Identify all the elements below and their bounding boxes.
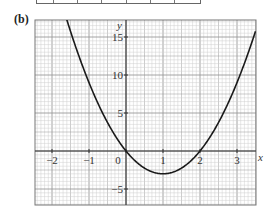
x-tick-label: 1 bbox=[160, 154, 166, 166]
x-axis-label: x bbox=[257, 151, 263, 163]
x-tick-label: −1 bbox=[83, 154, 95, 166]
x-tick-label: 2 bbox=[197, 154, 203, 166]
parabola-curve bbox=[35, 0, 255, 174]
x-tick-label: −2 bbox=[46, 154, 58, 166]
y-tick-label: −5 bbox=[111, 183, 123, 195]
x-tick-label: 0 bbox=[115, 154, 121, 166]
y-tick-label: 5 bbox=[118, 107, 124, 119]
y-tick-label: 10 bbox=[112, 69, 124, 81]
graph-paper-plot: −2−1012315105−5xy bbox=[0, 0, 265, 213]
y-axis-label: y bbox=[116, 19, 122, 31]
y-tick-label: 15 bbox=[112, 31, 124, 43]
x-tick-label: 3 bbox=[234, 154, 240, 166]
